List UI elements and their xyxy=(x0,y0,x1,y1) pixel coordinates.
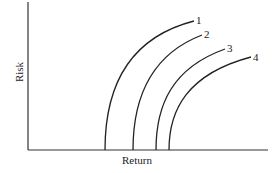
curve-1 xyxy=(105,21,194,150)
curve-label-2: 2 xyxy=(204,28,210,40)
y-axis-label: Risk xyxy=(13,61,25,82)
curve-label-1: 1 xyxy=(196,14,202,26)
risk-return-chart: 1 2 3 4 Return Risk xyxy=(0,0,277,173)
curve-4 xyxy=(169,57,251,150)
curve-label-3: 3 xyxy=(227,42,233,54)
curve-label-4: 4 xyxy=(253,51,259,63)
curve-2 xyxy=(133,35,202,150)
curve-3 xyxy=(156,49,225,150)
x-axis-label: Return xyxy=(122,154,152,166)
